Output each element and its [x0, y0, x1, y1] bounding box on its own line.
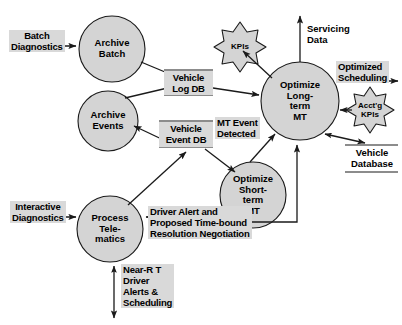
flow-optimized-scheduling-label: Optimized Scheduling: [336, 61, 389, 83]
flow-vehicle-database-arrow: [325, 134, 365, 143]
flow-telematics-to-event-db-arrow: [128, 152, 186, 205]
flow-batch-diagnostics-label: Batch Diagnostics: [9, 30, 65, 52]
flow-optimize-long-to-kpis-arrow: [243, 51, 272, 78]
dataflow-diagram-canvas: Archive Batch Archive Events Process Tel…: [0, 0, 402, 325]
flow-servicing-data-label: Servicing Data: [307, 23, 350, 45]
flow-near-rt-driver-alerts-label: Near-R T Driver Alerts & Scheduling: [121, 264, 174, 308]
star-acctg-kpis-shape: [346, 87, 394, 133]
flow-event-db-to-optimize-short-arrow: [205, 149, 235, 172]
flow-log-db-to-optimize-long-arrow: [213, 88, 259, 95]
flow-mt-event-detected-label: MT Event Detected: [215, 117, 260, 139]
process-optimize-long-term-shape: [261, 62, 339, 140]
process-archive-batch-shape: [79, 16, 145, 82]
store-vehicle-event-db-label: Vehicle Event DB: [159, 122, 213, 147]
store-vehicle-log-db-label: Vehicle Log DB: [164, 71, 213, 95]
process-archive-events-shape: [78, 91, 138, 151]
flow-interactive-diagnostics-label: Interactive Diagnostics: [10, 201, 66, 223]
flow-driver-alert-negotiation-label: Driver Alert and Proposed Time-bound Res…: [148, 206, 252, 239]
process-telematics-shape: [77, 196, 143, 262]
store-vehicle-database-label: Vehicle Database: [346, 147, 398, 169]
